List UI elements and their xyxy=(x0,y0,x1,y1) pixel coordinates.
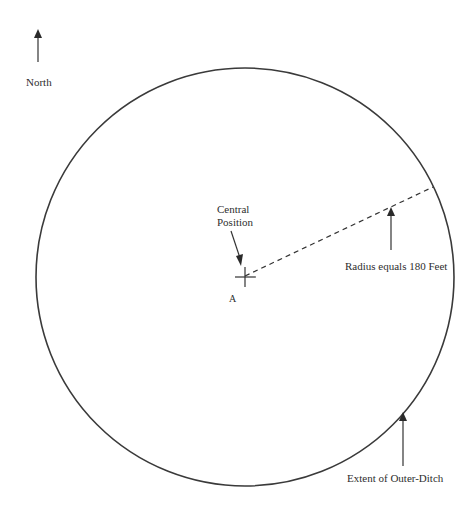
site-plan-diagram xyxy=(0,0,476,518)
point-a-label: A xyxy=(229,292,236,305)
central-position-cross-icon xyxy=(235,267,256,287)
north-arrow-icon xyxy=(34,29,42,62)
central-position-label-line1: Central xyxy=(217,203,253,216)
outer-ditch-label: Extent of Outer-Ditch xyxy=(347,472,443,485)
north-label: North xyxy=(26,76,52,89)
central-position-label: Central Position xyxy=(217,203,253,229)
central-position-label-line2: Position xyxy=(217,216,253,229)
radius-label: Radius equals 180 Feet xyxy=(345,260,447,273)
central-position-arrow-icon xyxy=(231,231,243,266)
outer-ditch-arrow-icon xyxy=(399,412,407,466)
radius-arrow-icon xyxy=(387,207,395,250)
